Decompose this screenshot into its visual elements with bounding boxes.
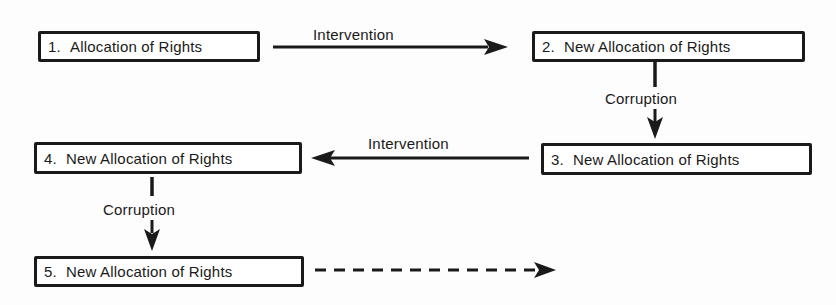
arrow-dashed-continuation: [315, 262, 556, 278]
node-text: Allocation of Rights: [70, 38, 202, 55]
node-3-new-allocation-of-rights: 3. New Allocation of Rights: [541, 143, 812, 175]
node-text: New Allocation of Rights: [66, 150, 233, 167]
node-number: 1.: [48, 38, 61, 55]
node-number: 3.: [551, 151, 564, 168]
node-number: 4.: [44, 150, 57, 167]
edge-label-intervention-3-4: Intervention: [368, 135, 449, 152]
edge-label-corruption-4-5: Corruption: [103, 201, 175, 218]
node-text: New Allocation of Rights: [564, 38, 731, 55]
node-number: 2.: [542, 38, 555, 55]
node-number: 5.: [44, 263, 57, 280]
node-text: New Allocation of Rights: [573, 151, 740, 168]
arrow-intervention-3-to-4: [311, 150, 529, 166]
edge-label-intervention-1-2: Intervention: [313, 26, 394, 43]
node-text: New Allocation of Rights: [66, 263, 233, 280]
node-4-new-allocation-of-rights: 4. New Allocation of Rights: [34, 142, 302, 174]
node-1-allocation-of-rights: 1. Allocation of Rights: [38, 31, 260, 62]
node-5-new-allocation-of-rights: 5. New Allocation of Rights: [34, 256, 304, 287]
diagram-canvas: Intervention Corruption Intervention Cor…: [0, 0, 836, 305]
edge-label-corruption-2-3: Corruption: [605, 90, 677, 107]
node-2-new-allocation-of-rights: 2. New Allocation of Rights: [532, 31, 805, 62]
